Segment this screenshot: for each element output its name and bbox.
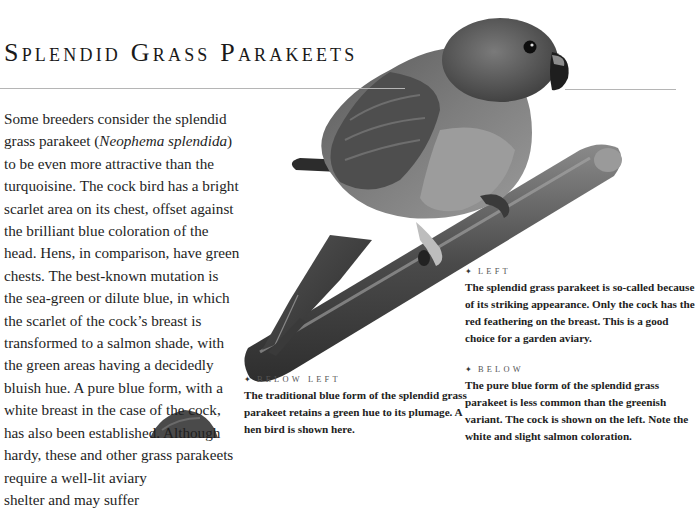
body-line: the scarlet of the cock’s breast is <box>4 310 240 332</box>
body-line: the brilliant blue coloration of the <box>4 220 240 242</box>
body-line: white breast in the case of the cock, <box>4 399 240 421</box>
caption-line: parakeet is less common than the greenis… <box>465 394 676 411</box>
caption-heading: ✦ BELOW <box>465 364 676 375</box>
caption-line: of its striking appearance. Only the coc… <box>465 296 676 313</box>
caption-line: variant. The cock is shown on the left. … <box>465 411 676 428</box>
caption-line: white and slight salmon coloration. <box>465 428 676 445</box>
body-line: to be even more attractive than the <box>4 153 240 175</box>
body-line: shelter and may suffer <box>4 489 240 511</box>
body-line: head. Hens, in comparison, have green <box>4 242 240 264</box>
parakeet-head <box>442 18 569 102</box>
caption-text: The traditional blue form of the splendi… <box>244 387 459 438</box>
caption-heading-text: BELOW LEFT <box>257 374 341 385</box>
bullet-icon: ✦ <box>465 266 472 277</box>
body-line: require a well-lit aviary <box>4 467 240 489</box>
body-text-fragment: ) <box>227 132 232 149</box>
caption-line: parakeet retains a green hue to its plum… <box>244 404 459 421</box>
bullet-icon: ✦ <box>244 374 251 385</box>
caption-heading-text: BELOW <box>478 364 524 375</box>
caption-line: hen bird is shown here. <box>244 421 459 438</box>
body-line: grass parakeet (Neophema splendida) <box>4 130 240 152</box>
body-line: hardy, these and other grass parakeets <box>4 444 240 466</box>
page-title: Splendid Grass Parakeets <box>4 38 358 68</box>
caption-below-left: ✦ BELOW LEFT The traditional blue form o… <box>244 374 459 438</box>
body-text-fragment: grass parakeet ( <box>4 132 99 149</box>
caption-text: The pure blue form of the splendid grass… <box>465 377 676 445</box>
caption-line: choice for a garden aviary. <box>465 330 676 347</box>
caption-below: ✦ BELOW The pure blue form of the splend… <box>465 364 676 445</box>
body-line: turquoisine. The cock bird has a bright <box>4 175 240 197</box>
parakeet-body <box>292 48 532 219</box>
body-line: has also been established. Although <box>4 422 240 444</box>
caption-line: The splendid grass parakeet is so-called… <box>465 279 676 296</box>
header-rule-right <box>565 89 676 90</box>
caption-line: The traditional blue form of the splendi… <box>244 387 459 404</box>
caption-left: ✦ LEFT The splendid grass parakeet is so… <box>465 266 676 347</box>
body-line: scarlet area on its chest, offset agains… <box>4 198 240 220</box>
caption-heading: ✦ LEFT <box>465 266 676 277</box>
parakeet-tail <box>262 235 372 356</box>
body-paragraph: Some breeders consider the splendid gras… <box>4 108 240 511</box>
caption-heading-text: LEFT <box>478 266 511 277</box>
scientific-name: Neophema splendida <box>99 132 227 149</box>
body-line: the sea-green or dilute blue, in which <box>4 287 240 309</box>
header-rule <box>0 88 405 89</box>
body-line: the green areas having a decidedly <box>4 354 240 376</box>
body-line: chests. The best-known mutation is <box>4 265 240 287</box>
parakeet-feet <box>416 194 509 266</box>
body-line: transformed to a salmon shade, with <box>4 332 240 354</box>
body-line: bluish hue. A pure blue form, with a <box>4 377 240 399</box>
caption-heading: ✦ BELOW LEFT <box>244 374 459 385</box>
bullet-icon: ✦ <box>465 364 472 375</box>
body-line: Some breeders consider the splendid <box>4 108 240 130</box>
caption-line: red feathering on the breast. This is a … <box>465 313 676 330</box>
caption-text: The splendid grass parakeet is so-called… <box>465 279 676 347</box>
caption-line: The pure blue form of the splendid grass <box>465 377 676 394</box>
